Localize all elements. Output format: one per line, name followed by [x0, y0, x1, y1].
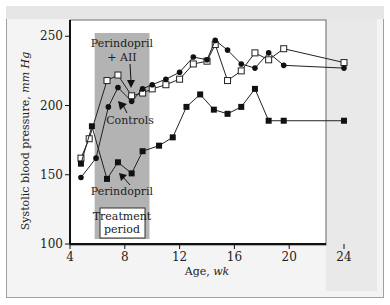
data-point — [163, 76, 169, 82]
annotation-perindopril-aii-1: Perindopril — [91, 37, 154, 50]
data-point — [281, 118, 287, 124]
data-point — [140, 86, 146, 92]
y-tick-label: 250 — [40, 29, 63, 43]
data-point — [341, 65, 347, 71]
data-point — [252, 50, 258, 56]
data-point — [266, 118, 272, 124]
data-point — [204, 57, 210, 63]
data-point — [163, 82, 169, 88]
annotation-perindopril-aii-2: + AII — [107, 51, 136, 64]
data-point — [225, 111, 231, 117]
data-point — [238, 104, 244, 110]
annotation-controls: Controls — [106, 114, 154, 127]
data-point — [281, 63, 287, 69]
data-point — [78, 175, 84, 181]
data-point — [197, 91, 203, 97]
data-point — [177, 69, 183, 75]
data-point — [89, 123, 95, 129]
data-point — [191, 54, 197, 60]
data-point — [156, 143, 162, 149]
data-point — [341, 118, 347, 124]
data-point — [225, 78, 231, 84]
data-point — [225, 47, 231, 53]
data-point — [140, 148, 146, 154]
x-tick-label: 16 — [227, 250, 242, 264]
data-point — [281, 46, 287, 52]
data-point — [93, 155, 99, 161]
data-point — [104, 176, 110, 182]
annotation-treatment-2: period — [104, 223, 140, 236]
data-point — [211, 107, 217, 113]
x-tick-label: 8 — [121, 250, 129, 264]
data-point — [129, 99, 135, 105]
data-point — [252, 86, 258, 92]
data-point — [190, 61, 196, 67]
data-point — [183, 104, 189, 110]
data-point — [266, 57, 272, 63]
annotation-perindopril: Perindopril — [91, 185, 154, 198]
x-axis-label: Age, wk — [184, 265, 230, 278]
annotation-treatment-1: Treatment — [93, 210, 152, 223]
y-axis-label: Systolic blood pressure, mm Hg — [19, 52, 32, 230]
data-point — [177, 76, 183, 82]
data-point — [170, 134, 176, 140]
data-point — [129, 93, 135, 99]
data-point — [115, 159, 121, 165]
data-point — [238, 68, 244, 74]
data-point — [149, 82, 155, 88]
x-tick-label: 24 — [336, 250, 352, 264]
data-point — [212, 38, 218, 44]
data-point — [129, 170, 135, 176]
data-point — [78, 161, 84, 167]
data-point — [341, 60, 347, 66]
data-point — [252, 65, 258, 71]
data-point — [104, 78, 110, 84]
x-tick-label: 4 — [66, 250, 74, 264]
x-tick-label: 20 — [282, 250, 297, 264]
chart: 1001502002504812162024 Perindopril + AII… — [0, 0, 390, 305]
data-point — [238, 61, 244, 67]
y-tick-label: 150 — [40, 168, 63, 182]
y-tick-label: 200 — [40, 99, 63, 113]
y-tick-label: 100 — [40, 237, 63, 251]
data-point — [115, 85, 121, 91]
data-point — [115, 72, 121, 78]
data-point — [266, 50, 272, 56]
x-tick-label: 12 — [172, 250, 187, 264]
data-point — [106, 104, 112, 110]
